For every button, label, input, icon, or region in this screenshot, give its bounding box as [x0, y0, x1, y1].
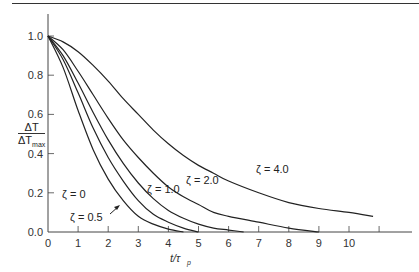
- x-tick-label: 8: [286, 237, 292, 249]
- x-tick-label: 6: [226, 237, 232, 249]
- curve-label: ζ = 1.0: [147, 183, 180, 195]
- x-axis-title: t/τp: [170, 252, 191, 267]
- curve-label: ζ = 0: [62, 188, 86, 200]
- y-tick-label: 0.6: [28, 108, 43, 120]
- x-axis-title-sub: p: [186, 259, 191, 267]
- x-tick-label: 5: [195, 237, 201, 249]
- curve-0-5: [48, 36, 199, 232]
- x-tick-label: 7: [256, 237, 262, 249]
- y-axis-title-denominator: ΔTmax: [18, 134, 45, 151]
- curve-label: ζ = 2.0: [186, 174, 219, 186]
- curve-label: ζ = 0.5: [70, 211, 103, 223]
- y-axis-den-text: ΔT: [18, 134, 32, 146]
- x-tick-label: 2: [105, 237, 111, 249]
- x-tick-label: 1: [75, 237, 81, 249]
- x-axis-title-text: t/τ: [170, 252, 181, 264]
- curve-1-0: [48, 36, 244, 232]
- y-axis-den-sub: max: [32, 141, 45, 148]
- x-tick-label: 0: [45, 237, 51, 249]
- curve-label: ζ = 4.0: [256, 163, 289, 175]
- x-tick-label: 9: [316, 237, 322, 249]
- curve-4-0: [48, 36, 373, 216]
- y-axis-title-numerator: ΔT: [18, 121, 45, 134]
- x-tick-label: 3: [135, 237, 141, 249]
- chart: 0123456789100.00.20.40.60.81.0 ζ = 0ζ = …: [0, 0, 419, 272]
- curve-2-0: [48, 36, 319, 232]
- curves: [48, 36, 373, 232]
- x-tick-label: 4: [165, 237, 171, 249]
- x-tick-label: 10: [343, 237, 355, 249]
- y-tick-label: 0.2: [28, 187, 43, 199]
- y-axis-title: ΔT ΔTmax: [18, 121, 45, 151]
- y-tick-label: 0.0: [28, 226, 43, 238]
- y-tick-label: 0.8: [28, 69, 43, 81]
- y-tick-label: 1.0: [28, 30, 43, 42]
